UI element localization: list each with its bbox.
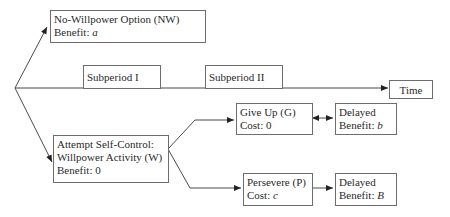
willpower-box: Attempt Self-Control: Willpower Activity… (53, 135, 169, 183)
persevere-benefit-line2: Benefit: B (339, 189, 393, 202)
willpower-line3: Benefit: 0 (57, 164, 165, 177)
arrow-to-nw (15, 27, 47, 88)
persevere-benefit-line1: Delayed (339, 176, 393, 189)
time-box: Time (389, 80, 433, 99)
persevere-title: Persevere (P) (247, 176, 309, 189)
arrow-w-to-persevere (168, 149, 241, 188)
give-up-cost: Cost: 0 (240, 119, 309, 132)
subperiod-2-label: Subperiod II (209, 71, 279, 84)
give-up-box: Give Up (G) Cost: 0 (236, 103, 313, 135)
time-label: Time (393, 84, 429, 97)
no-willpower-benefit: Benefit: a (54, 26, 202, 39)
persevere-cost: Cost: c (247, 189, 309, 202)
give-up-benefit-box: Delayed Benefit: b (335, 103, 397, 135)
subperiod-1-label: Subperiod I (87, 71, 157, 84)
no-willpower-title: No-Willpower Option (NW) (54, 13, 202, 26)
give-up-benefit-line1: Delayed (339, 106, 393, 119)
give-up-title: Give Up (G) (240, 106, 309, 119)
give-up-benefit-line2: Benefit: b (339, 119, 393, 132)
willpower-line1: Attempt Self-Control: (57, 138, 165, 151)
subperiod-1-box: Subperiod I (83, 65, 161, 89)
arrow-w-to-giveup (168, 120, 234, 149)
no-willpower-box: No-Willpower Option (NW) Benefit: a (50, 10, 206, 43)
persevere-box: Persevere (P) Cost: c (243, 173, 313, 206)
arrow-to-w (15, 88, 52, 162)
willpower-line2: Willpower Activity (W) (57, 151, 165, 164)
subperiod-2-box: Subperiod II (205, 65, 283, 89)
persevere-benefit-box: Delayed Benefit: B (335, 173, 397, 206)
